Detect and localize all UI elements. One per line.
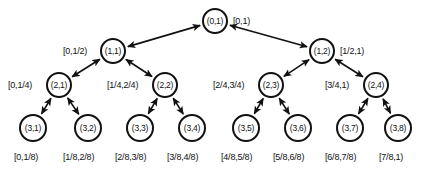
interval-label-n34: [3/8,4/8) xyxy=(167,152,198,162)
tree-node-n32[interactable]: (3,2) xyxy=(74,114,102,142)
tree-node-n23[interactable]: (2,3) xyxy=(258,72,284,98)
tree-node-label: (0,1) xyxy=(207,16,223,26)
tree-node-label: (2,3) xyxy=(263,80,279,90)
tree-node-label: (2,4) xyxy=(368,80,384,90)
tree-node-label: (3,4) xyxy=(184,123,200,133)
tree-node-label: (3,6) xyxy=(290,123,306,133)
tree-edge xyxy=(279,98,289,114)
interval-label-n36: [5/8,6/8) xyxy=(273,152,304,162)
tree-edge xyxy=(359,98,368,114)
tree-node-label: (3,5) xyxy=(238,123,254,133)
tree-node-label: (3,8) xyxy=(390,123,406,133)
interval-label-n23: [2/4,3/4) xyxy=(213,80,244,90)
tree-edge xyxy=(42,98,51,114)
tree-node-label: (3,1) xyxy=(25,123,41,133)
tree-edge xyxy=(128,25,200,46)
tree-edge xyxy=(284,60,309,77)
tree-node-n37[interactable]: (3,7) xyxy=(336,114,364,142)
tree-node-label: (3,2) xyxy=(80,123,96,133)
interval-label-n01: [0,1) xyxy=(233,16,250,26)
tree-node-label: (1,2) xyxy=(314,46,330,56)
tree-edge xyxy=(148,98,157,113)
tree-node-n34[interactable]: (3,4) xyxy=(178,114,206,142)
tree-node-n24[interactable]: (2,4) xyxy=(363,72,389,98)
tree-edge xyxy=(72,59,100,76)
interval-label-n11: [0,1/2) xyxy=(63,46,87,56)
interval-label-n31: [0,1/8) xyxy=(14,152,38,162)
interval-label-n35: [4/8,5/8) xyxy=(221,152,252,162)
tree-node-n31[interactable]: (3,1) xyxy=(19,114,47,142)
interval-label-n21: [0,1/4) xyxy=(8,80,32,90)
tree-node-n36[interactable]: (3,6) xyxy=(284,114,312,142)
tree-node-n01[interactable]: (0,1) xyxy=(202,8,228,34)
tree-node-label: (3,3) xyxy=(132,123,148,133)
interval-label-n24: [3/4,1) xyxy=(325,80,349,90)
tree-edge xyxy=(173,98,183,114)
tree-node-n33[interactable]: (3,3) xyxy=(126,114,154,142)
tree-edge xyxy=(254,98,263,113)
tree-edge xyxy=(68,98,79,114)
tree-node-n35[interactable]: (3,5) xyxy=(232,114,260,142)
interval-label-n22: [1/4,2/4) xyxy=(107,80,138,90)
interval-label-n33: [2/8,3/8) xyxy=(115,152,146,162)
interval-label-n32: [1/8,2/8) xyxy=(63,152,94,162)
interval-label-n38: [7/8,1) xyxy=(379,152,403,162)
interval-label-n12: [1/2,1) xyxy=(340,46,364,56)
tree-node-label: (1,1) xyxy=(105,46,121,56)
tree-edge xyxy=(230,25,307,47)
tree-node-n12[interactable]: (1,2) xyxy=(309,38,335,64)
tree-diagram: (0,1)(1,1)(1,2)(2,1)(2,2)(2,3)(2,4)(3,1)… xyxy=(0,0,436,169)
tree-edge xyxy=(126,59,152,76)
tree-node-n38[interactable]: (3,8) xyxy=(384,114,412,142)
tree-node-n22[interactable]: (2,2) xyxy=(152,72,178,98)
tree-node-label: (2,1) xyxy=(51,80,67,90)
tree-node-n21[interactable]: (2,1) xyxy=(46,72,72,98)
tree-edge xyxy=(335,59,363,76)
tree-edge xyxy=(383,99,390,114)
tree-node-label: (2,2) xyxy=(157,80,173,90)
tree-node-label: (3,7) xyxy=(342,123,358,133)
interval-label-n37: [6/8,7/8) xyxy=(325,152,356,162)
tree-node-n11[interactable]: (1,1) xyxy=(100,38,126,64)
